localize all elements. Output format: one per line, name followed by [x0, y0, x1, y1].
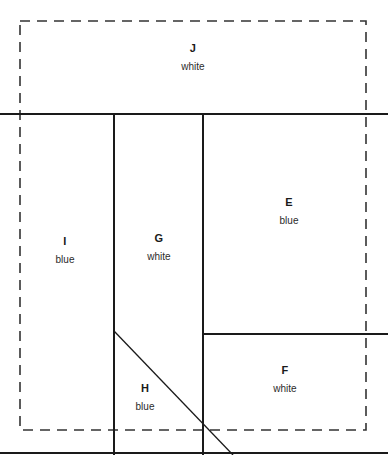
- solid-divider-lines: [0, 114, 388, 455]
- dashed-outline-rect: [20, 21, 366, 430]
- diagram-canvas: JwhiteEblueIblueGwhiteFwhiteHblue: [0, 0, 388, 455]
- diagonal-divider-gh: [114, 331, 233, 455]
- region-diagram-svg: [0, 0, 388, 455]
